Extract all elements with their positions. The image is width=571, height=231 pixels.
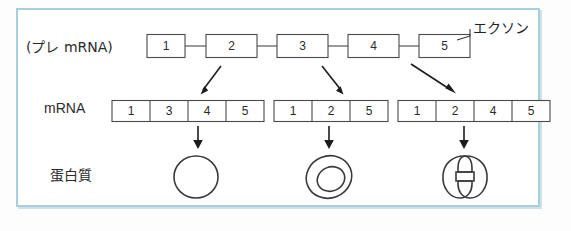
pre-mrna-exon-box-4-number: 4 (370, 39, 377, 53)
splicing-diagram: (プレ mRNA) 1 2 3 4 5 (0, 0, 571, 231)
mrna-variant-2-cell-3: 5 (366, 104, 373, 118)
pre-mrna-exon-box-2[interactable]: 2 (206, 35, 257, 58)
pre-mrna-row-label: (プレ mRNA) (26, 39, 113, 55)
pre-mrna-exon-box-1[interactable]: 1 (147, 35, 185, 58)
pre-mrna-exon-box-1-number: 1 (163, 39, 170, 53)
figure-root: (プレ mRNA) 1 2 3 4 5 (0, 0, 571, 231)
pre-mrna-exon-box-2-number: 2 (228, 39, 235, 53)
protein-shape-bilobed[interactable] (443, 156, 487, 198)
mrna-row-label: mRNA (44, 100, 86, 116)
translation-arrow-3 (459, 126, 469, 149)
protein-shape-circle[interactable] (174, 156, 218, 198)
splice-arrow-3 (411, 64, 456, 94)
protein-row-label: 蛋白質 (50, 167, 92, 183)
protein-shape-nested-ellipse[interactable] (300, 149, 358, 205)
translation-arrow-2 (324, 126, 334, 149)
pre-mrna-exon-box-3[interactable]: 3 (277, 35, 328, 58)
splice-arrow-2 (322, 66, 344, 95)
mrna-variant-1-cell-3: 4 (204, 104, 211, 118)
mrna-variant-3-cell-4: 5 (528, 104, 535, 118)
pre-mrna-exon-box-4[interactable]: 4 (348, 35, 399, 58)
translation-arrow-1 (193, 126, 203, 149)
mrna-variant-1[interactable]: 1 3 4 5 (112, 101, 264, 122)
mrna-variant-2[interactable]: 1 2 5 (274, 101, 388, 122)
mrna-variant-1-cell-2: 3 (166, 104, 173, 118)
mrna-variant-3[interactable]: 1 2 4 5 (398, 101, 550, 122)
mrna-variant-3-cell-2: 2 (452, 104, 459, 118)
pre-mrna-exon-box-5-number: 5 (441, 39, 448, 53)
mrna-variant-2-cell-2: 2 (328, 104, 335, 118)
mrna-variant-3-cell-3: 4 (490, 104, 497, 118)
exon-annotation-label: エクソン (473, 20, 529, 36)
mrna-variant-2-cell-1: 1 (290, 104, 297, 118)
splice-arrow-1 (201, 66, 222, 95)
mrna-variant-1-cell-1: 1 (128, 104, 135, 118)
mrna-variant-3-cell-1: 1 (414, 104, 421, 118)
mrna-variant-1-cell-4: 5 (242, 104, 249, 118)
pre-mrna-exon-box-3-number: 3 (299, 39, 306, 53)
